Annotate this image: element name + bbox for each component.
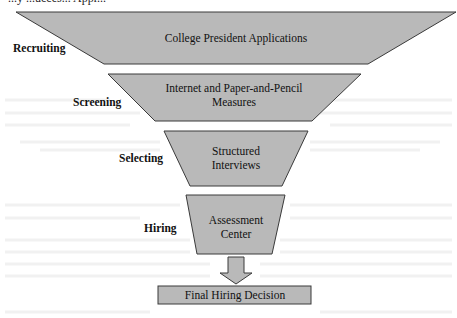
final-decision-label: Final Hiring Decision [185,288,285,302]
stage-label-recruiting: Recruiting [13,43,65,55]
stage-content-line: Internet and Paper-and-Pencil [165,81,302,95]
stage-label-hiring: Hiring [144,223,177,235]
stage-label-selecting: Selecting [119,153,163,165]
stage-content-recruiting: College President Applications [165,31,307,45]
stage-content-hiring: Assessment Center [209,213,263,241]
down-arrow-icon [220,257,252,284]
stage-content-line: Structured [212,144,261,158]
stage-content-line: Assessment [209,213,263,227]
stage-content-line: College President Applications [165,31,307,45]
stage-label-screening: Screening [73,97,121,109]
stage-content-screening: Internet and Paper-and-Pencil Measures [165,81,302,109]
stage-content-line: Interviews [212,158,261,172]
stage-content-line: Center [209,227,263,241]
stage-content-selecting: Structured Interviews [212,144,261,172]
stage-content-line: Measures [165,95,302,109]
